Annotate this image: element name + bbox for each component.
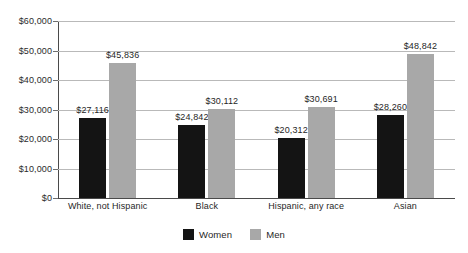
y-axis-tick-mark: [53, 110, 58, 111]
bar-value-label: $48,842: [404, 41, 437, 51]
bar-group: $24,842$30,112: [178, 21, 235, 198]
bar-men: $48,842: [407, 54, 434, 198]
y-axis-tick-label: $50,000: [0, 46, 52, 56]
bar-value-label: $24,842: [175, 112, 208, 122]
bar-value-label: $30,112: [206, 96, 239, 106]
bar-men: $45,836: [109, 63, 136, 198]
bar-men: $30,691: [308, 107, 335, 198]
men-swatch-icon: [250, 229, 261, 240]
y-axis-tick-mark: [53, 198, 58, 199]
y-axis-tick-label: $20,000: [0, 134, 52, 144]
bar-group: $28,260$48,842: [377, 21, 434, 198]
bar-group: $27,116$45,836: [79, 21, 136, 198]
y-axis-tick-mark: [53, 80, 58, 81]
women-swatch-icon: [183, 229, 194, 240]
legend-item-women[interactable]: Women: [183, 229, 232, 240]
bar-women: $27,116: [79, 118, 106, 198]
y-axis-tick-label: $10,000: [0, 164, 52, 174]
legend-label: Women: [199, 229, 232, 240]
category-label: White, not Hispanic: [58, 201, 157, 211]
x-axis-line: [58, 198, 455, 199]
legend-label: Men: [266, 229, 285, 240]
y-axis-tick-mark: [53, 51, 58, 52]
chart-legend: WomenMen: [0, 229, 468, 240]
legend-item-men[interactable]: Men: [250, 229, 285, 240]
bar-value-label: $27,116: [76, 105, 109, 115]
bar-value-label: $45,836: [106, 50, 139, 60]
bar-group: $20,312$30,691: [278, 21, 335, 198]
category-label: Black: [157, 201, 256, 211]
y-axis-tick-label: $40,000: [0, 75, 52, 85]
bar-men: $30,112: [208, 109, 235, 198]
bar-value-label: $30,691: [305, 94, 338, 104]
y-axis-tick-label: $60,000: [0, 16, 52, 26]
bar-chart: $0$10,000$20,000$30,000$40,000$50,000$60…: [0, 0, 468, 253]
y-axis-tick-mark: [53, 139, 58, 140]
bar-women: $20,312: [278, 138, 305, 198]
y-axis-tick-label: $30,000: [0, 105, 52, 115]
category-label: Asian: [356, 201, 455, 211]
bar-value-label: $28,260: [374, 102, 407, 112]
bar-women: $28,260: [377, 115, 404, 198]
y-axis-tick-label: $0: [0, 193, 52, 203]
bar-value-label: $20,312: [275, 125, 308, 135]
category-label: Hispanic, any race: [257, 201, 356, 211]
y-axis-tick-mark: [53, 21, 58, 22]
bar-women: $24,842: [178, 125, 205, 198]
y-axis-tick-mark: [53, 169, 58, 170]
plot-area: $27,116$45,836$24,842$30,112$20,312$30,6…: [58, 21, 455, 198]
